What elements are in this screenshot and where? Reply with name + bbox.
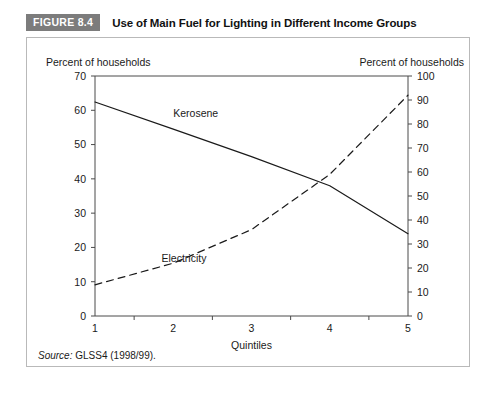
left-axis-caption: Percent of households	[46, 56, 151, 68]
figure-container: FIGURE 8.4 Use of Main Fuel for Lighting…	[0, 0, 498, 396]
figure-header: FIGURE 8.4 Use of Main Fuel for Lighting…	[26, 14, 416, 31]
source-keyword: Source:	[38, 350, 72, 361]
source-note: Source: GLSS4 (1998/99).	[38, 350, 156, 361]
source-text: GLSS4 (1998/99).	[75, 350, 156, 361]
right-axis-caption: Percent of households	[360, 56, 465, 68]
figure-panel	[26, 37, 470, 367]
figure-title: Use of Main Fuel for Lighting in Differe…	[112, 17, 416, 29]
figure-number-badge: FIGURE 8.4	[26, 14, 100, 31]
